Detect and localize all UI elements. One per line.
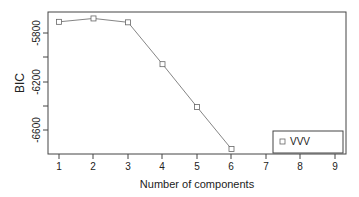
x-tick-label: 8 [297, 161, 303, 172]
data-point-square-icon [229, 147, 234, 152]
y-tick-label: -5800 [31, 20, 42, 46]
data-point-square-icon [160, 62, 165, 67]
x-tick-label: 5 [194, 161, 200, 172]
x-tick-label: 2 [90, 161, 96, 172]
legend-square-marker-icon [280, 139, 285, 144]
y-axis [43, 33, 48, 130]
y-axis-label: BIC [13, 73, 27, 93]
y-tick-label: -6600 [31, 117, 42, 143]
legend-label: VVV [290, 136, 310, 147]
legend: VVV [273, 131, 343, 153]
x-tick-label: 6 [228, 161, 234, 172]
x-tick-label: 7 [263, 161, 269, 172]
x-tick-labels: 1 2 3 4 5 6 7 8 9 [56, 161, 338, 172]
y-tick-label: -6200 [31, 69, 42, 95]
data-point-square-icon [195, 104, 200, 109]
x-axis-label: Number of components [140, 178, 255, 190]
data-point-square-icon [91, 16, 96, 21]
x-axis [59, 154, 335, 159]
series-vvv [57, 16, 235, 152]
series-line [59, 18, 232, 149]
bic-chart: -5800 -6200 -6600 BIC 1 2 3 4 5 6 7 8 9 [0, 0, 359, 197]
x-tick-label: 4 [159, 161, 165, 172]
x-tick-label: 9 [332, 161, 338, 172]
x-tick-label: 1 [56, 161, 62, 172]
data-point-square-icon [126, 20, 131, 25]
x-tick-label: 3 [125, 161, 131, 172]
data-point-square-icon [57, 19, 62, 24]
y-tick-labels: -5800 -6200 -6600 [31, 20, 42, 143]
